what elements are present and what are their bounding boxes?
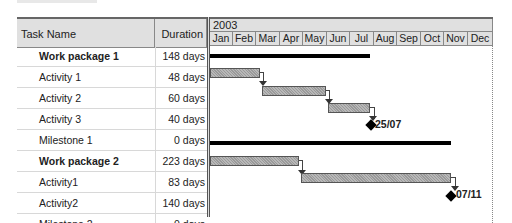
task-duration: 148 days (162, 50, 205, 62)
timescale-year: 2003 (210, 19, 493, 32)
task-name: Milestone 1 (39, 134, 93, 146)
task-duration: 140 days (162, 197, 205, 209)
task-row[interactable]: Activity1 83 days (17, 172, 207, 193)
month-jan: Jan (210, 32, 233, 45)
month-feb: Feb (233, 32, 256, 45)
year-label: 2003 (213, 19, 237, 31)
month-nov: Nov (444, 32, 468, 45)
task-row[interactable]: Work package 1 148 days (17, 46, 207, 67)
task-bar-activity1[interactable] (210, 156, 299, 166)
task-name: Work package 1 (39, 50, 119, 62)
task-duration: 223 days (162, 155, 205, 167)
month-may: May (303, 32, 327, 45)
task-row[interactable]: Activity 1 48 days (17, 67, 207, 88)
milestone-1-date-label: 25/07 (375, 118, 401, 130)
summary-bar-work-package-1[interactable] (210, 54, 370, 58)
month-aug: Aug (374, 32, 397, 45)
task-row[interactable]: Milestone 1 0 days (17, 130, 207, 151)
duration-header-label: Duration (161, 28, 203, 40)
pane-splitter[interactable] (207, 17, 210, 217)
task-row[interactable]: Activity2 140 days (17, 193, 207, 214)
month-apr: Apr (280, 32, 303, 45)
task-name: Activity 3 (39, 113, 81, 125)
task-duration: 0 days (174, 134, 205, 146)
timescale-end-line (492, 46, 493, 223)
task-name: Activity 1 (39, 71, 81, 83)
task-bar-activity-2[interactable] (262, 86, 326, 96)
task-bar-activity-3[interactable] (328, 103, 370, 113)
task-duration: 48 days (168, 71, 205, 83)
month-mar: Mar (256, 32, 280, 45)
task-duration: 0 days (174, 218, 205, 223)
task-name: Work package 2 (39, 155, 119, 167)
task-name: Activity1 (39, 176, 78, 188)
timescale-months: Jan Feb Mar Apr May Jun Jul Aug Sep Oct … (210, 32, 493, 46)
task-name: Activity 2 (39, 92, 81, 104)
task-bar-activity2[interactable] (301, 173, 451, 183)
task-name: Activity2 (39, 197, 78, 209)
task-duration: 60 days (168, 92, 205, 104)
summary-bar-work-package-2[interactable] (210, 141, 451, 145)
column-header-task-name[interactable]: Task Name (17, 19, 155, 48)
month-jun: Jun (327, 32, 350, 45)
month-oct: Oct (421, 32, 444, 45)
month-dec: Dec (468, 32, 493, 45)
milestone-2-diamond-icon[interactable] (445, 190, 456, 201)
task-row[interactable]: Activity 2 60 days (17, 88, 207, 109)
task-row[interactable]: Milestone 2 0 days (17, 214, 207, 223)
task-name-header-label: Task Name (21, 28, 76, 40)
task-row[interactable]: Work package 2 223 days (17, 151, 207, 172)
task-duration: 83 days (168, 176, 205, 188)
task-name: Milestone 2 (39, 218, 93, 223)
task-duration: 40 days (168, 113, 205, 125)
task-bar-activity-1[interactable] (210, 68, 260, 78)
month-sep: Sep (397, 32, 421, 45)
milestone-2-date-label: 07/11 (456, 188, 482, 200)
month-jul: Jul (350, 32, 374, 45)
task-row[interactable]: Activity 3 40 days (17, 109, 207, 130)
column-header-duration[interactable]: Duration (155, 19, 207, 48)
toolbar-remnant (17, 0, 97, 3)
